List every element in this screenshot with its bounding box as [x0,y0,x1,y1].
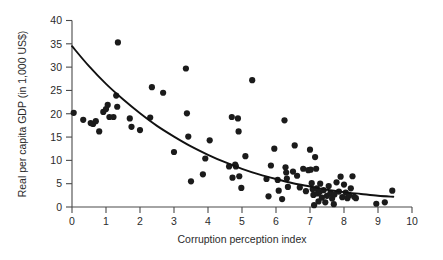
data-point [127,115,133,121]
data-point [317,181,323,187]
data-point [333,179,339,185]
data-point [322,199,328,205]
data-point [279,196,285,202]
x-tick-label: 3 [171,215,177,227]
data-point [202,155,208,161]
data-point [128,124,134,130]
data-point [110,114,116,120]
data-point [285,184,291,190]
data-point [188,178,194,184]
data-point [236,128,242,134]
y-tick-label: 5 [56,177,62,189]
data-point [309,180,315,186]
data-point [308,167,314,173]
x-tick-label: 6 [273,215,279,227]
data-point [249,77,255,83]
data-point [265,193,271,199]
y-tick-label: 10 [50,154,62,166]
data-point [338,174,344,180]
data-point [292,142,298,148]
trend-curve [72,46,393,197]
x-tick-label: 5 [239,215,245,227]
data-point [326,183,332,189]
data-point [80,117,86,123]
y-tick-label: 15 [50,131,62,143]
data-point [307,147,313,153]
data-point [96,128,102,134]
x-tick-label: 4 [205,215,211,227]
y-tick-label: 20 [50,108,62,120]
data-point [238,185,244,191]
data-point [93,118,99,124]
y-tick-label: 0 [56,201,62,213]
data-point [341,182,347,188]
data-point [185,133,191,139]
data-point [312,154,318,160]
data-point [184,110,190,116]
data-point [281,117,287,123]
x-tick-label: 10 [406,215,418,227]
data-point [382,199,388,205]
data-point [160,90,166,96]
data-point [313,166,319,172]
x-tick-label: 8 [341,215,347,227]
data-point [200,171,206,177]
x-axis-title: Corruption perception index [178,233,308,245]
x-tick-label: 7 [307,215,313,227]
data-point [242,153,248,159]
data-point [348,185,354,191]
data-point [353,195,359,201]
data-point [235,115,241,121]
data-point [114,104,120,110]
data-point [149,84,155,90]
data-point [303,188,309,194]
y-tick-label: 30 [50,61,62,73]
y-tick-label: 25 [50,84,62,96]
data-point [183,65,189,71]
data-point [171,149,177,155]
y-tick-label: 40 [50,14,62,26]
data-point [105,102,111,108]
x-tick-label: 2 [137,215,143,227]
data-point [276,188,282,194]
data-point [71,110,77,116]
chart-figure: 0510152025303540 012345678910 Corruption… [0,0,443,260]
data-point [115,39,121,45]
data-point [331,201,337,207]
data-point [373,201,379,207]
x-axis-ticks: 012345678910 [69,207,418,227]
data-point [229,114,235,120]
y-axis-ticks: 0510152025303540 [50,14,72,213]
data-point [236,173,242,179]
data-point [268,162,274,168]
y-axis-title: Real per capita GDP (in 1,000 US$) [16,31,28,198]
data-point [349,173,355,179]
data-point [229,175,235,181]
x-tick-label: 1 [103,215,109,227]
x-tick-label: 0 [69,215,75,227]
data-points [71,39,396,208]
data-point [283,169,289,175]
data-point [294,173,300,179]
data-point [389,188,395,194]
x-tick-label: 9 [375,215,381,227]
data-point [271,146,277,152]
data-point [207,137,213,143]
y-tick-label: 35 [50,38,62,50]
scatter-plot: 0510152025303540 012345678910 Corruption… [0,0,443,260]
data-point [137,127,143,133]
